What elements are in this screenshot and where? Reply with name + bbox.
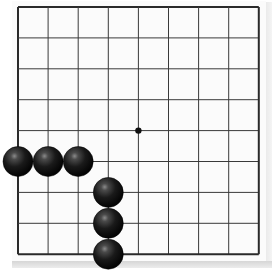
stones-layer — [3, 147, 123, 270]
star-point — [135, 127, 141, 133]
black-stone[interactable] — [93, 208, 123, 238]
go-board[interactable] — [0, 0, 275, 278]
black-stone[interactable] — [93, 239, 123, 269]
black-stone[interactable] — [3, 147, 33, 177]
go-board-diagram — [0, 0, 275, 278]
black-stone[interactable] — [33, 147, 63, 177]
black-stone[interactable] — [93, 177, 123, 207]
star-points — [135, 127, 141, 133]
black-stone[interactable] — [63, 147, 93, 177]
